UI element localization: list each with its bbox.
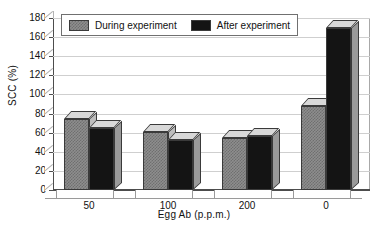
bar-during-200[interactable] xyxy=(222,138,247,190)
chart-legend: During experiment After experiment xyxy=(61,14,298,36)
bar-front-face xyxy=(168,140,193,190)
bar-front-face xyxy=(301,106,326,190)
legend-swatch-during-icon xyxy=(69,20,89,31)
bar-after-0[interactable] xyxy=(326,28,351,190)
bar-group-base xyxy=(293,190,351,198)
bar-group-base xyxy=(135,190,193,198)
bar-during-0[interactable] xyxy=(301,106,326,190)
x-axis-title: Egg Ab (p.p.m.) xyxy=(0,209,388,220)
legend-label-after: After experiment xyxy=(217,20,290,31)
legend-entry-after: After experiment xyxy=(191,20,290,31)
bar-front-face xyxy=(143,132,168,190)
bar-front-face xyxy=(222,138,247,190)
bar-after-100[interactable] xyxy=(168,140,193,190)
legend-entry-during: During experiment xyxy=(69,20,177,31)
bar-front-face xyxy=(64,119,89,190)
bar-front-face xyxy=(247,136,272,190)
bar-side-face xyxy=(272,129,280,190)
legend-swatch-after-icon xyxy=(191,20,211,31)
bar-group-base xyxy=(56,190,114,198)
bar-front-face xyxy=(326,28,351,190)
bar-after-50[interactable] xyxy=(89,128,114,190)
chart-container: SCC (%) 020406080100120140160180 5010020… xyxy=(0,0,388,233)
bar-group-base xyxy=(214,190,272,198)
bar-during-50[interactable] xyxy=(64,119,89,190)
bar-front-face xyxy=(89,128,114,190)
bar-after-200[interactable] xyxy=(247,136,272,190)
bar-during-100[interactable] xyxy=(143,132,168,190)
bar-side-face xyxy=(114,121,122,190)
bar-side-face xyxy=(193,133,201,190)
bar-side-face xyxy=(351,20,359,190)
legend-label-during: During experiment xyxy=(95,20,177,31)
